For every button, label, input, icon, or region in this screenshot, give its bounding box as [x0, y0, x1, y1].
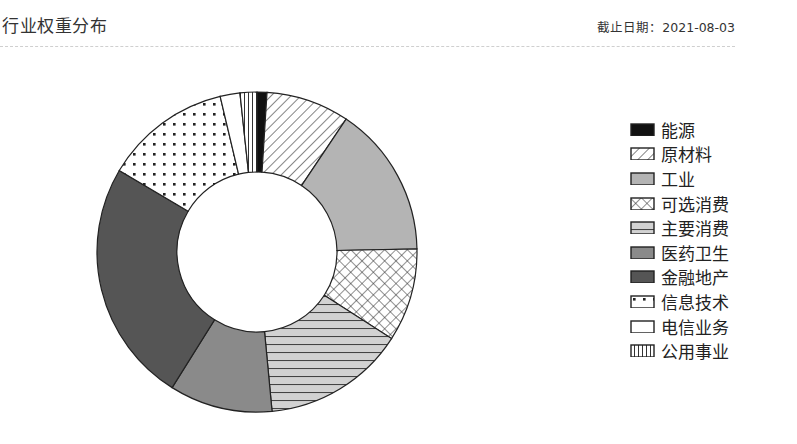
legend-label: 医药卫生 — [661, 240, 729, 265]
legend-swatch-icon — [630, 197, 655, 210]
legend-label: 信息技术 — [661, 289, 729, 314]
legend-label: 电信业务 — [661, 314, 729, 339]
legend-label: 原材料 — [661, 141, 712, 166]
legend-item: 工业 — [630, 166, 729, 191]
legend-swatch-icon — [630, 147, 655, 160]
legend-item: 医药卫生 — [630, 240, 729, 265]
legend-item: 可选消费 — [630, 191, 729, 216]
legend-item: 原材料 — [630, 142, 729, 167]
donut-slices — [97, 92, 417, 412]
legend-swatch-icon — [630, 123, 655, 136]
legend-label: 能源 — [661, 117, 695, 142]
legend-swatch-icon — [630, 320, 655, 333]
legend-item: 主要消费 — [630, 215, 729, 240]
legend-label: 主要消费 — [661, 215, 729, 240]
legend-swatch-icon — [630, 295, 655, 308]
legend: 能源原材料工业可选消费主要消费医药卫生金融地产信息技术电信业务公用事业 — [630, 117, 729, 363]
legend-swatch-icon — [630, 270, 655, 283]
legend-label: 工业 — [661, 166, 695, 191]
legend-item: 信息技术 — [630, 289, 729, 314]
legend-swatch-icon — [630, 344, 655, 357]
legend-swatch-icon — [630, 172, 655, 185]
legend-label: 可选消费 — [661, 191, 729, 216]
legend-label: 公用事业 — [661, 338, 729, 363]
legend-swatch-icon — [630, 221, 655, 234]
legend-item: 电信业务 — [630, 314, 729, 339]
legend-label: 金融地产 — [661, 264, 729, 289]
legend-item: 金融地产 — [630, 265, 729, 290]
legend-item: 能源 — [630, 117, 729, 142]
legend-swatch-icon — [630, 246, 655, 259]
legend-item: 公用事业 — [630, 338, 729, 363]
